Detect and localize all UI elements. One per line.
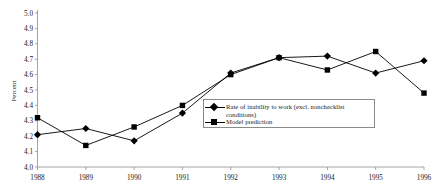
- data-point-square: [35, 115, 40, 120]
- legend: Rate of inability to work (excl. nonchec…: [203, 99, 375, 128]
- x-tick-label: 1990: [127, 174, 142, 182]
- legend-item-rate: Rate of inability to work (excl. nonchec…: [204, 103, 372, 112]
- data-point-square: [276, 55, 281, 60]
- data-point-square: [180, 103, 185, 108]
- y-tick-label: 5.0: [24, 10, 33, 18]
- x-tick-label: 1991: [175, 174, 190, 182]
- legend-item-label: Model prediction: [226, 118, 372, 126]
- x-tick-label: 1994: [320, 174, 335, 182]
- y-tick-label: 4.0: [24, 164, 33, 172]
- y-tick-label: 4.6: [24, 71, 33, 79]
- y-tick-label: 4.4: [24, 102, 33, 110]
- x-tick-label: 1988: [30, 174, 45, 182]
- x-tick-label: 1995: [369, 174, 384, 182]
- legend-item-model: Model prediction: [204, 118, 372, 127]
- line-chart: 4.04.14.24.34.44.54.64.74.84.95.01988198…: [0, 0, 434, 192]
- data-point-square: [228, 72, 233, 77]
- data-point-square: [325, 67, 330, 72]
- y-axis-title: Percent: [7, 56, 21, 126]
- x-tick-label: 1996: [417, 174, 432, 182]
- data-point-diamond: [324, 53, 331, 60]
- x-tick-label: 1989: [79, 174, 94, 182]
- square-marker-icon: [204, 118, 226, 127]
- data-point-square: [83, 143, 88, 148]
- y-tick-label: 4.5: [24, 87, 33, 95]
- data-point-diamond: [372, 69, 379, 76]
- diamond-marker-icon: [204, 103, 226, 112]
- y-tick-label: 4.2: [24, 133, 33, 141]
- data-point-square: [421, 90, 426, 95]
- x-tick-label: 1993: [272, 174, 287, 182]
- y-tick-label: 4.7: [24, 56, 33, 64]
- data-point-square: [131, 124, 136, 129]
- data-point-diamond: [34, 131, 41, 138]
- data-point-diamond: [82, 125, 89, 132]
- legend-item-label: Rate of inability to work (excl. nonchec…: [226, 103, 372, 119]
- data-point-diamond: [420, 57, 427, 64]
- y-tick-label: 4.1: [24, 148, 33, 156]
- y-axis-title-label: Percent: [7, 56, 21, 126]
- data-point-diamond: [131, 137, 138, 144]
- y-tick-label: 4.9: [24, 25, 33, 33]
- plot-area: 4.04.14.24.34.44.54.64.74.84.95.01988198…: [0, 0, 434, 192]
- data-point-square: [373, 49, 378, 54]
- y-tick-label: 4.3: [24, 117, 33, 125]
- x-tick-label: 1992: [224, 174, 239, 182]
- y-tick-label: 4.8: [24, 40, 33, 48]
